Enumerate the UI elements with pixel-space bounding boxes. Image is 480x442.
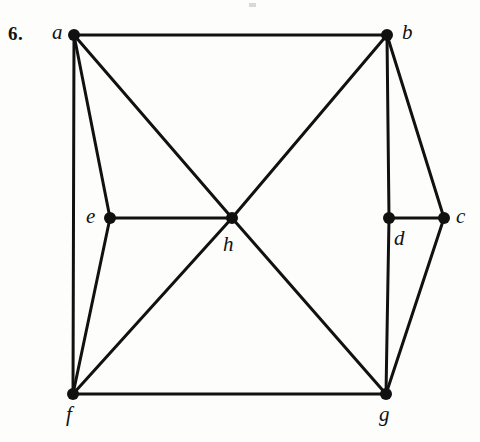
node-label-f: f — [66, 404, 72, 425]
scan-speck-top — [249, 3, 256, 7]
graph-edge-a-f — [73, 35, 74, 394]
graph-node-g[interactable] — [380, 388, 392, 400]
graph-node-a[interactable] — [68, 29, 80, 41]
graph-edge-b-c — [387, 35, 444, 218]
node-label-c: c — [456, 206, 465, 227]
node-label-b: b — [402, 22, 413, 43]
graph-edge-b-d — [387, 35, 389, 218]
graph-node-e[interactable] — [104, 212, 116, 224]
graph-node-d[interactable] — [383, 212, 395, 224]
graph-node-b[interactable] — [381, 29, 393, 41]
problem-number: 6. — [8, 23, 23, 45]
graph-edge-e-f — [73, 218, 110, 394]
graph-node-f[interactable] — [67, 388, 79, 400]
graph-edge-a-e — [74, 35, 110, 218]
graph-diagram — [0, 0, 480, 442]
node-label-d: d — [394, 228, 405, 249]
graph-edge-g-h — [232, 218, 386, 394]
figure-canvas: 6. abcdefgh — [0, 0, 480, 442]
graph-edge-d-g — [386, 218, 389, 394]
node-label-g: g — [379, 404, 390, 425]
graph-edge-a-h — [74, 35, 232, 218]
node-label-e: e — [86, 206, 95, 227]
graph-edge-b-h — [232, 35, 387, 218]
graph-node-h[interactable] — [226, 212, 238, 224]
graph-node-c[interactable] — [438, 212, 450, 224]
node-label-a: a — [52, 22, 63, 43]
graph-edge-f-h — [73, 218, 232, 394]
node-layer — [67, 29, 450, 400]
node-label-h: h — [223, 234, 234, 255]
